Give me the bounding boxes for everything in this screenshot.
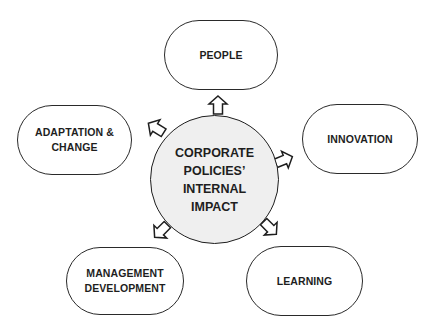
node-management-development: MANAGEMENT DEVELOPMENT: [66, 247, 184, 315]
node-innovation-label: INNOVATION: [327, 132, 392, 147]
node-adaptation-change: ADAPTATION & CHANGE: [17, 105, 132, 175]
node-learning: LEARNING: [246, 246, 363, 316]
center-hub-label: CORPORATE POLICIES’ INTERNAL IMPACT: [175, 144, 254, 216]
node-management-development-label: MANAGEMENT DEVELOPMENT: [84, 266, 165, 296]
node-people: PEOPLE: [164, 20, 278, 90]
center-hub: CORPORATE POLICIES’ INTERNAL IMPACT: [150, 115, 279, 244]
node-learning-label: LEARNING: [277, 274, 333, 289]
arrow-up-icon: [209, 96, 227, 114]
corporate-policies-diagram: CORPORATE POLICIES’ INTERNAL IMPACT PEOP…: [0, 0, 432, 330]
node-innovation: INNOVATION: [302, 104, 418, 174]
node-adaptation-change-label: ADAPTATION & CHANGE: [35, 125, 114, 155]
node-people-label: PEOPLE: [199, 48, 242, 63]
